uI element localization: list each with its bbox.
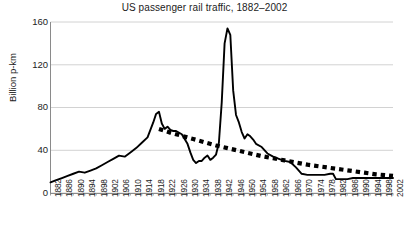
x-tick-label-1986: 1986 xyxy=(351,179,360,197)
x-tick-label-1922: 1922 xyxy=(168,179,177,197)
x-tick-label-1894: 1894 xyxy=(88,179,97,197)
x-tick-label-2002: 2002 xyxy=(396,179,405,197)
x-tick-label-1926: 1926 xyxy=(180,179,189,197)
x-tick-label-1898: 1898 xyxy=(100,179,109,197)
x-tick-label-1998: 1998 xyxy=(385,179,394,197)
x-tick-label-1914: 1914 xyxy=(145,179,154,197)
x-tick-label-1886: 1886 xyxy=(65,179,74,197)
x-tick-label-1890: 1890 xyxy=(77,179,86,197)
x-tick-label-1906: 1906 xyxy=(122,179,131,197)
x-tick-label-1934: 1934 xyxy=(202,179,211,197)
x-tick-label-1938: 1938 xyxy=(214,179,223,197)
x-tick-label-1910: 1910 xyxy=(134,179,143,197)
x-tick-label-1950: 1950 xyxy=(248,179,257,197)
x-tick-label-1970: 1970 xyxy=(305,179,314,197)
x-tick-label-1974: 1974 xyxy=(317,179,326,197)
x-tick-label-1930: 1930 xyxy=(191,179,200,197)
chart-figure: US passenger rail traffic, 1882–2002 Bil… xyxy=(0,0,409,241)
x-tick-label-1982: 1982 xyxy=(339,179,348,197)
x-tick-label-1990: 1990 xyxy=(362,179,371,197)
x-tick-label-1958: 1958 xyxy=(271,179,280,197)
x-tick-label-1994: 1994 xyxy=(374,179,383,197)
x-axis-tick-labels: 1882188618901894189819021906191019141918… xyxy=(0,0,409,241)
x-tick-label-1966: 1966 xyxy=(294,179,303,197)
x-tick-label-1918: 1918 xyxy=(157,179,166,197)
x-tick-label-1942: 1942 xyxy=(225,179,234,197)
x-tick-label-1946: 1946 xyxy=(237,179,246,197)
x-tick-label-1882: 1882 xyxy=(54,179,63,197)
x-tick-label-1954: 1954 xyxy=(259,179,268,197)
x-tick-label-1978: 1978 xyxy=(328,179,337,197)
x-tick-label-1962: 1962 xyxy=(282,179,291,197)
x-tick-label-1902: 1902 xyxy=(111,179,120,197)
